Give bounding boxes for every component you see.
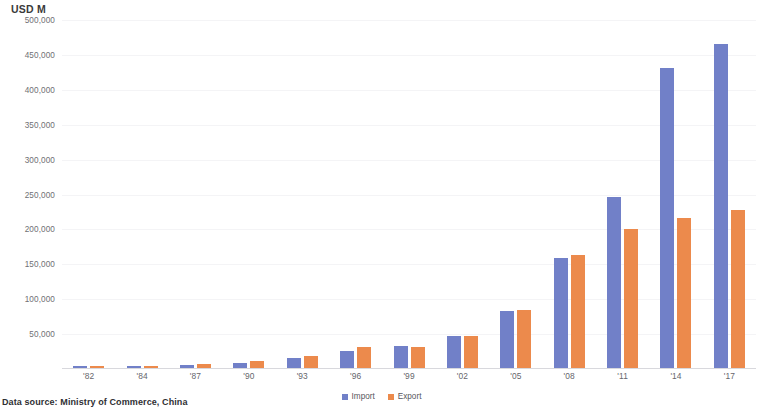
bar-export[interactable] (411, 347, 425, 369)
y-axis-tick-labels: 50,000100,000150,000200,000250,000300,00… (0, 20, 55, 369)
bar-import[interactable] (607, 197, 621, 369)
y-axis-tick-label: 350,000 (3, 120, 55, 129)
bar-group (222, 20, 275, 369)
source-note: Data source: Ministry of Commerce, China (2, 397, 188, 407)
bar-group (596, 20, 649, 369)
bar-export[interactable] (677, 218, 691, 369)
bar-export[interactable] (517, 310, 531, 369)
x-axis-tick-label: '90 (222, 371, 275, 387)
bar-export[interactable] (464, 336, 478, 370)
bar-import[interactable] (340, 351, 354, 369)
legend-swatch-icon (388, 394, 394, 400)
y-axis-tick-label: 200,000 (3, 225, 55, 234)
bar-import[interactable] (500, 311, 514, 369)
y-axis-tick-label: 500,000 (3, 16, 55, 25)
bar-groups (62, 20, 756, 369)
bar-group (489, 20, 542, 369)
bar-group (276, 20, 329, 369)
x-axis-tick-label: '05 (489, 371, 542, 387)
legend-item-import[interactable]: Import (342, 392, 375, 401)
y-axis-tick-label: 300,000 (3, 155, 55, 164)
chart-page: USD M 50,000100,000150,000200,000250,000… (0, 0, 763, 409)
plot-area (62, 20, 756, 369)
x-axis-tick-label: '96 (329, 371, 382, 387)
x-axis-tick-label: '14 (649, 371, 702, 387)
y-axis-tick-label: 250,000 (3, 190, 55, 199)
x-axis-tick-label: '87 (169, 371, 222, 387)
legend-label: Export (398, 392, 422, 401)
axis-baseline (62, 368, 756, 369)
bar-group (649, 20, 702, 369)
bar-group (436, 20, 489, 369)
bar-export[interactable] (624, 229, 638, 369)
bar-import[interactable] (714, 44, 728, 369)
bar-export[interactable] (571, 255, 585, 369)
x-axis-tick-label: '84 (115, 371, 168, 387)
legend-label: Import (352, 392, 375, 401)
x-axis-tick-label: '11 (596, 371, 649, 387)
bar-group (329, 20, 382, 369)
bar-export[interactable] (357, 347, 371, 369)
bar-group (703, 20, 756, 369)
y-axis-tick-label: 450,000 (3, 50, 55, 59)
bar-group (115, 20, 168, 369)
x-axis-tick-label: '99 (382, 371, 435, 387)
x-axis-tick-label: '08 (543, 371, 596, 387)
y-axis-tick-label: 50,000 (3, 330, 55, 339)
bar-group (543, 20, 596, 369)
legend-swatch-icon (342, 394, 348, 400)
bar-group (382, 20, 435, 369)
x-axis-tick-label: '93 (276, 371, 329, 387)
bar-import[interactable] (554, 258, 568, 369)
x-axis-tick-label: '17 (703, 371, 756, 387)
bar-export[interactable] (731, 210, 745, 369)
x-axis-tick-label: '82 (62, 371, 115, 387)
bar-import[interactable] (394, 346, 408, 369)
bar-group (169, 20, 222, 369)
x-axis-tick-label: '02 (436, 371, 489, 387)
legend-item-export[interactable]: Export (388, 392, 422, 401)
x-axis-tick-labels: '82'84'87'90'93'96'99'02'05'08'11'14'17 (62, 371, 756, 387)
y-axis-tick-label: 400,000 (3, 85, 55, 94)
bar-export[interactable] (304, 356, 318, 369)
bar-import[interactable] (447, 336, 461, 369)
y-axis-title: USD M (11, 3, 46, 15)
bar-group (62, 20, 115, 369)
y-axis-tick-label: 100,000 (3, 295, 55, 304)
plot-inner (62, 20, 756, 369)
bar-import[interactable] (660, 68, 674, 369)
y-axis-tick-label: 150,000 (3, 260, 55, 269)
